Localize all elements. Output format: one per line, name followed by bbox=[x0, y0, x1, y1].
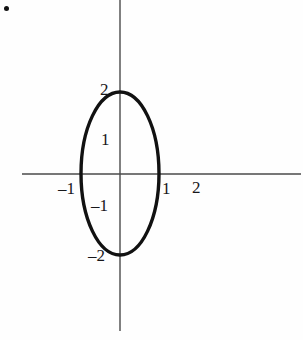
plot-figure: 2 1 –1 –2 –1 1 2 bbox=[0, 0, 303, 340]
coordinate-plane-svg bbox=[0, 0, 303, 340]
y-tick-label-minus-1: –1 bbox=[91, 197, 108, 214]
x-tick-label-1: 1 bbox=[162, 180, 171, 197]
x-tick-label-2: 2 bbox=[192, 179, 201, 196]
y-tick-label-minus-2: –2 bbox=[88, 247, 105, 264]
y-tick-label-1: 1 bbox=[101, 131, 110, 148]
y-tick-label-2: 2 bbox=[100, 81, 109, 98]
x-tick-label-minus-1: –1 bbox=[58, 180, 75, 197]
